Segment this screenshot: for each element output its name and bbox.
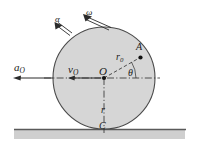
- label-point-a: A: [136, 42, 142, 52]
- label-center-velocity-subscript: O: [73, 68, 78, 77]
- rolling-disk-diagram: α ω aO vO O r0 A θ r C: [0, 0, 199, 154]
- label-contact-point: C: [99, 121, 106, 131]
- label-angular-velocity: ω: [86, 8, 92, 17]
- label-angular-acceleration: α: [55, 15, 60, 24]
- label-radius-r0: r0: [116, 52, 123, 64]
- acceleration-ao-arrowhead: [13, 75, 21, 80]
- label-center-acceleration-subscript: O: [20, 66, 25, 75]
- point-a-marker: [138, 55, 142, 59]
- label-center-acceleration: aO: [14, 62, 25, 75]
- ground-band: [14, 130, 185, 139]
- label-center-velocity: vO: [68, 64, 78, 77]
- label-radius-r0-subscript: 0: [120, 56, 123, 63]
- label-angle-theta: θ: [128, 68, 133, 78]
- label-center-point: O: [99, 66, 107, 77]
- label-disk-radius: r: [101, 105, 105, 115]
